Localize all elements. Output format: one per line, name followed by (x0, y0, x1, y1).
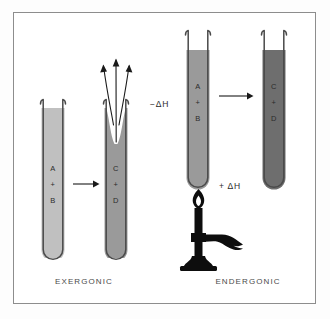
reaction-arrow-right-head (247, 92, 254, 99)
reaction-arrow-left (73, 180, 100, 187)
tube1-label-a: A (40, 164, 66, 173)
tube3-label-b: B (185, 114, 211, 123)
diagram-canvas (0, 0, 330, 319)
tube1-label-b: B (40, 196, 66, 205)
caption-endergonic: ENDERGONIC (198, 277, 298, 286)
vapor-arrow-left-head (100, 65, 107, 73)
burner-base-plate (180, 266, 217, 271)
burner-hose (205, 235, 243, 251)
tube2-label-d: D (103, 196, 129, 205)
tube2-label-plus: + (103, 180, 129, 189)
test-tube-endergonic-products (261, 30, 287, 190)
plus-delta-h-label: + ΔH (219, 181, 241, 191)
tube3-label-plus: + (185, 98, 211, 107)
vapor-arrow-right-head (126, 65, 133, 73)
burner-stem (196, 242, 202, 258)
figure-root: A + B C + D A + B C + D −ΔH + ΔH EXERGON… (0, 0, 330, 319)
bunsen-burner (180, 189, 243, 271)
tube4-label-plus: + (261, 98, 287, 107)
burner-collar (191, 233, 206, 242)
test-tube-endergonic-reactants (185, 30, 211, 190)
tube4-label-c: C (261, 82, 287, 91)
reaction-arrow-right (219, 92, 254, 99)
vapor-arrow-center-head (113, 59, 120, 67)
tube1-label-plus: + (40, 180, 66, 189)
reaction-arrow-left-head (93, 180, 100, 187)
tube4-label-d: D (261, 114, 287, 123)
tube2-label-c: C (103, 164, 129, 173)
caption-exergonic: EXERGONIC (34, 277, 134, 286)
tube3-label-a: A (185, 82, 211, 91)
minus-delta-h-label: −ΔH (150, 99, 169, 109)
